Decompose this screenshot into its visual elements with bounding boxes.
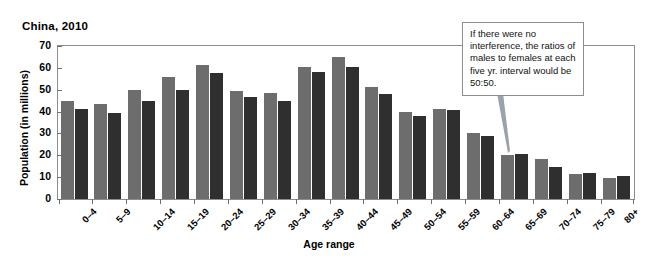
bar-female (481, 136, 494, 199)
x-tick-mark (633, 199, 634, 204)
bar-male (501, 155, 514, 199)
x-tick-label: 75–79 (591, 206, 617, 232)
x-tick-label: 30–34 (286, 206, 312, 232)
bar-female (447, 110, 460, 199)
x-tick-label: 25–29 (252, 206, 278, 232)
x-tick-label: 55–59 (455, 206, 481, 232)
y-tick-label: 0 (20, 192, 51, 204)
x-tick-mark (465, 199, 466, 204)
x-tick-mark (228, 199, 229, 204)
bar-male (433, 109, 446, 199)
bar-female (515, 154, 528, 199)
bar-female (142, 101, 155, 199)
x-tick-label: 80+ (622, 206, 641, 225)
bar-female (210, 73, 223, 199)
x-tick-mark (160, 199, 161, 204)
bar-female (176, 90, 189, 199)
bar-female (583, 173, 596, 199)
x-tick-label: 35–39 (320, 206, 346, 232)
x-tick-mark (262, 199, 263, 204)
x-tick-label: 15–19 (184, 206, 210, 232)
x-tick-mark (397, 199, 398, 204)
y-tick-label: 60 (20, 61, 51, 73)
x-tick-mark (194, 199, 195, 204)
x-tick-mark (330, 199, 331, 204)
x-tick-label: 20–24 (218, 206, 244, 232)
bar-male (94, 104, 107, 199)
bar-male (467, 133, 480, 199)
y-tick-label: 40 (20, 105, 51, 117)
bar-male (399, 112, 412, 199)
bar-male (61, 101, 74, 199)
bar-female (75, 109, 88, 199)
bar-female (108, 113, 121, 199)
y-tick-label: 10 (20, 170, 51, 182)
bar-male (569, 174, 582, 199)
x-tick-label: 0–4 (80, 206, 99, 225)
x-tick-mark (92, 199, 93, 204)
x-tick-mark (499, 199, 500, 204)
x-tick-label: 70–74 (557, 206, 583, 232)
bar-female (617, 176, 630, 199)
bar-male (365, 87, 378, 199)
y-tick-label: 50 (20, 83, 51, 95)
x-tick-label: 60–64 (489, 206, 515, 232)
x-tick-mark (431, 199, 432, 204)
y-tick-label: 70 (20, 39, 51, 51)
x-axis-title: Age range (0, 238, 658, 250)
bar-male (264, 93, 277, 199)
bar-female (312, 72, 325, 199)
x-tick-label: 45–49 (388, 206, 414, 232)
x-tick-mark (126, 199, 127, 204)
y-tick-label: 20 (20, 148, 51, 160)
x-tick-mark (567, 199, 568, 204)
annotation-callout: If there were no interference, the ratio… (462, 22, 584, 96)
bar-male (535, 159, 548, 199)
x-tick-label: 10–14 (150, 206, 176, 232)
bar-female (346, 67, 359, 199)
bar-female (549, 167, 562, 199)
bar-male (196, 65, 209, 199)
bar-male (298, 67, 311, 199)
x-tick-mark (533, 199, 534, 204)
x-tick-label: 40–44 (354, 206, 380, 232)
bar-male (603, 178, 616, 199)
x-tick-label: 50–54 (422, 206, 448, 232)
x-tick-label: 65–69 (523, 206, 549, 232)
x-tick-mark (59, 199, 60, 204)
y-tick-label: 30 (20, 126, 51, 138)
bar-male (162, 77, 175, 199)
bar-female (379, 94, 392, 199)
bar-female (413, 116, 426, 199)
bar-female (278, 101, 291, 199)
x-tick-mark (296, 199, 297, 204)
bar-male (230, 91, 243, 199)
chart-title: China, 2010 (22, 20, 88, 32)
bar-male (332, 57, 345, 199)
x-tick-label: 5–9 (114, 206, 133, 225)
callout-leader-line (497, 93, 511, 153)
x-tick-mark (363, 199, 364, 204)
bar-male (128, 90, 141, 199)
bar-female (244, 97, 257, 199)
x-tick-mark (601, 199, 602, 204)
chart-screenshot: China, 2010 Population (in millions) 010… (0, 0, 658, 259)
